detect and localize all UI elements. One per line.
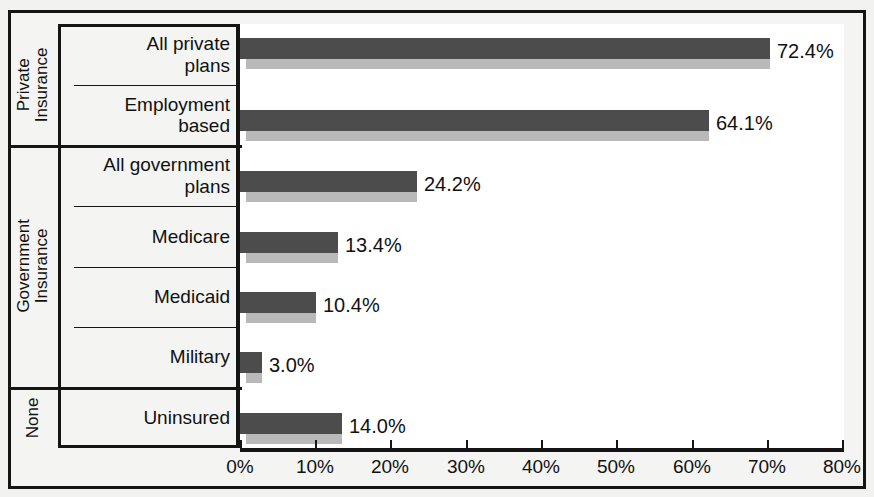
- bar-shadow: [246, 373, 262, 383]
- category-label-employment-based: Employment based: [58, 85, 240, 145]
- x-axis-tick-label-70: 70%: [748, 457, 786, 476]
- category-label-military: Military: [58, 327, 240, 387]
- x-axis-tick: [767, 440, 769, 449]
- bar-employment-based[interactable]: [240, 110, 709, 131]
- x-axis-tick-label-50: 50%: [597, 457, 635, 476]
- bar-shadow: [246, 131, 709, 141]
- bar-medicare[interactable]: [240, 232, 338, 253]
- group-label-none: None: [8, 387, 58, 448]
- group-label-line-1: Private: [14, 58, 33, 111]
- bar-value-all-private-plans: 72.4%: [777, 41, 834, 61]
- category-label-line-2: plans: [147, 55, 230, 76]
- bar-shadow: [246, 253, 338, 263]
- category-label-line-2: plans: [103, 176, 230, 197]
- bar-shadow: [246, 192, 417, 202]
- bar-value-uninsured: 14.0%: [349, 416, 406, 436]
- category-label-line-1: Military: [170, 346, 230, 367]
- category-label-uninsured: Uninsured: [58, 387, 240, 448]
- x-axis-tick: [390, 440, 392, 449]
- group-label-line-1: None: [23, 397, 42, 438]
- group-label-column: Private Insurance Government Insurance N…: [8, 24, 58, 448]
- group-label-private-insurance: Private Insurance: [8, 24, 58, 145]
- category-label-line-1: Uninsured: [143, 407, 230, 428]
- x-axis-tick-label-30: 30%: [447, 457, 485, 476]
- x-axis-tick-label-20: 20%: [371, 457, 409, 476]
- bar-shadow: [246, 434, 342, 444]
- x-axis-tick-label-60: 60%: [673, 457, 711, 476]
- category-label-line-1: Medicaid: [154, 286, 230, 307]
- group-label-line-2: Insurance: [33, 47, 51, 122]
- x-axis-tick: [842, 440, 844, 449]
- bar-medicaid[interactable]: [240, 292, 316, 313]
- category-label-medicare: Medicare: [58, 206, 240, 267]
- bar-military[interactable]: [240, 352, 262, 373]
- bar-value-medicare: 13.4%: [345, 235, 402, 255]
- x-axis-tick-label-10: 10%: [296, 457, 334, 476]
- x-axis-tick: [692, 440, 694, 449]
- category-label-all-government-plans: All government plans: [58, 145, 240, 206]
- x-axis-tick-label-40: 40%: [522, 457, 560, 476]
- x-axis-tick: [315, 440, 317, 449]
- bar-value-medicaid: 10.4%: [323, 295, 380, 315]
- category-label-medicaid: Medicaid: [58, 267, 240, 327]
- group-label-line-2: Insurance: [33, 219, 51, 313]
- bar-shadow: [246, 313, 316, 323]
- bar-shadow: [246, 59, 770, 69]
- group-label-line-1: Government: [14, 219, 33, 313]
- x-axis-tick: [240, 440, 242, 449]
- chart-container: Private Insurance Government Insurance N…: [0, 0, 874, 497]
- category-label-line-1: All private: [147, 33, 230, 54]
- bar-all-private-plans[interactable]: [240, 38, 770, 59]
- category-label-line-1: All government: [103, 154, 230, 175]
- bar-uninsured[interactable]: [240, 413, 342, 434]
- x-axis-tick: [616, 440, 618, 449]
- category-label-all-private-plans: All private plans: [58, 24, 240, 85]
- bar-value-military: 3.0%: [269, 355, 315, 375]
- category-label-line-2: based: [124, 115, 230, 136]
- category-label-line-1: Medicare: [152, 226, 230, 247]
- x-axis-tick-label-0: 0%: [226, 457, 253, 476]
- x-axis-tick: [541, 440, 543, 449]
- x-axis-tick-label-80: 80%: [823, 457, 861, 476]
- bar-value-all-government-plans: 24.2%: [424, 174, 481, 194]
- x-axis-tick: [466, 440, 468, 449]
- group-label-government-insurance: Government Insurance: [8, 145, 58, 387]
- bar-all-government-plans[interactable]: [240, 171, 417, 192]
- bar-value-employment-based: 64.1%: [716, 113, 773, 133]
- category-label-line-1: Employment: [124, 94, 230, 115]
